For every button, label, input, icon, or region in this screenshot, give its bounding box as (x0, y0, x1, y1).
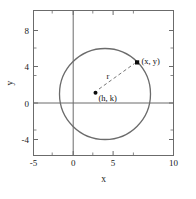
edge-point-label: (x, y) (142, 56, 161, 66)
center-point-label: (h, k) (99, 93, 118, 103)
x-tick-label-2: 5 (111, 158, 116, 168)
plot-frame (34, 11, 174, 156)
plot-canvas: -5 0 5 10 8 4 0 -4 x y r (h, k) (x, y) (0, 0, 196, 199)
x-axis-title: x (101, 174, 106, 184)
y-tick-label-3: -4 (22, 135, 30, 145)
circle-equation-figure: -5 0 5 10 8 4 0 -4 x y r (h, k) (x, y) (0, 0, 196, 199)
radius-label: r (107, 71, 110, 81)
radius-line (99, 64, 135, 90)
center-point-marker (94, 91, 98, 95)
x-tick-label-3: 10 (169, 158, 179, 168)
x-major-ticks (34, 11, 174, 156)
y-major-ticks (34, 31, 174, 140)
x-minor-ticks (52, 11, 133, 156)
y-tick-label-2: 0 (25, 99, 30, 109)
y-tick-label-1: 4 (25, 62, 30, 72)
y-axis-title: y (5, 80, 15, 85)
x-tick-label-0: -5 (30, 158, 38, 168)
y-tick-label-0: 8 (25, 26, 30, 36)
edge-point-marker (135, 60, 139, 64)
x-tick-label-1: 0 (71, 158, 76, 168)
